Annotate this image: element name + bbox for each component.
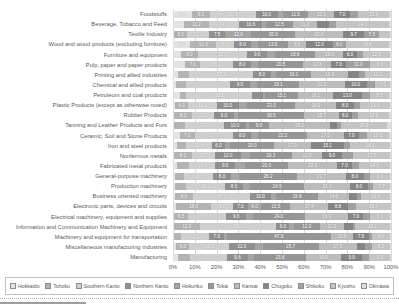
bar-segment: 12.0 — [294, 223, 320, 230]
bar-segment-label: 15.2 — [212, 62, 221, 67]
bar-segment: 7.0 — [233, 203, 248, 210]
bar-segment — [390, 61, 391, 68]
bar-segment: 6.0 — [212, 142, 225, 149]
bar-segment-label: 10.0 — [199, 113, 208, 118]
bar-segment-label: 9.0 — [329, 153, 335, 158]
bar-segment: 8.6 — [173, 11, 192, 18]
bar-segment — [243, 183, 251, 190]
bar-segment-label: 18.1 — [205, 244, 214, 249]
stacked-bar: 18.08.024.521.38.07.7 — [173, 183, 391, 190]
bar-segment-label: 10.6 — [246, 22, 255, 27]
bar-row: 8.010.712.019.313.99.017.3 — [173, 151, 391, 161]
bar-segment-label: 9.9 — [376, 255, 382, 260]
legend-item: Hokuriku — [174, 283, 202, 289]
bar-segment-label: 10.0 — [194, 32, 203, 37]
bar-segment — [389, 11, 391, 18]
bar-segment-label: 20.0 — [269, 32, 278, 37]
bar-segment-label: 14.0 — [329, 194, 338, 199]
bar-segment: 13.5 — [360, 102, 389, 109]
bar-segment: 19.3 — [250, 152, 292, 159]
bar-segment — [251, 61, 259, 68]
bar-segment: 26.2 — [239, 173, 296, 180]
bar-segment-label: 22.0 — [315, 32, 324, 37]
bar-segment — [235, 162, 245, 169]
bar-segment-label: 9.0 — [256, 123, 262, 128]
bar-segment: 9.0 — [247, 51, 267, 58]
bar-segment-label: 8.0 — [259, 72, 265, 77]
bar-segment-label: 8.5 — [376, 93, 382, 98]
category-axis: FoodstuffsBeverage, Tobacco and FeedText… — [0, 9, 170, 262]
legend-swatch — [234, 283, 240, 289]
bar-segment — [175, 173, 184, 180]
bar-segment: 11.0 — [346, 61, 370, 68]
bar-segment: 30.3 — [186, 92, 252, 99]
bar-segment-label: 7.0 — [369, 32, 375, 37]
bar-segment-label: 20.0 — [248, 143, 257, 148]
x-axis-tick-label: 0% — [169, 264, 177, 270]
bar-segment-label: 8.0 — [378, 234, 384, 239]
stacked-bar: 30.315.116.113.08.5 — [173, 92, 391, 99]
bar-segment — [390, 31, 391, 38]
x-axis: 0%10%20%30%40%50%60%70%80%90%100% — [173, 264, 391, 273]
stacked-bar: 8.68.520.910.011.512.17.013.9 — [173, 11, 391, 18]
bar-segment: 12.8 — [303, 61, 331, 68]
bar-segment: 12.0 — [190, 41, 216, 48]
bar-segment: 9.0 — [230, 81, 250, 88]
stacked-bar: 16.09.97.06.013.517.48.815.7 — [173, 203, 391, 210]
bar-segment: 11.0 — [293, 21, 317, 28]
stacked-bar: 17.910.09.028.220.9 — [173, 122, 391, 129]
bar-row: 29.38.016.116.911.2 — [173, 70, 391, 80]
bar-segment: 8.0 — [233, 132, 250, 139]
bar-segment: 21.0 — [299, 81, 345, 88]
bar-segment-label: 10.7 — [199, 153, 208, 158]
bar-segment-label: 9.7 — [350, 32, 356, 37]
legend-item-label: Kyushu — [338, 283, 355, 289]
bar-segment-label: 17.5 — [203, 214, 212, 219]
bar-segment: 10.0 — [345, 81, 367, 88]
bar-segment: 15.7 — [356, 203, 390, 210]
bar-segment: 10.6 — [239, 21, 262, 28]
bar-segment: 16.9 — [311, 71, 348, 78]
bar-segment-label: 6.0 — [180, 244, 186, 249]
bar-segment: 13.0 — [333, 92, 361, 99]
bar-segment: 7.0 — [348, 213, 363, 220]
legend-item: Chugoku — [263, 283, 292, 289]
bar-segment: 8.0 — [181, 51, 198, 58]
bar-segment: 22.0 — [247, 102, 295, 109]
bar-segment-label: 12.0 — [234, 32, 243, 37]
bar-segment: 7.0 — [185, 61, 200, 68]
category-label: Production machinery — [0, 181, 170, 191]
bar-segment: 6.0 — [176, 243, 189, 250]
bar-segment-label: 17.7 — [210, 133, 219, 138]
bar-segment-label: 7.9 — [178, 42, 184, 47]
bar-segment: 9.0 — [215, 162, 235, 169]
bar-segment-label: 20.5 — [276, 62, 285, 67]
bar-segment: 47.9 — [227, 233, 331, 240]
bar-segment — [176, 81, 186, 88]
bar-segment: 14.0 — [318, 193, 349, 200]
bar-segment-label: 10.0 — [223, 103, 232, 108]
bar-segment: 8.0 — [234, 41, 251, 48]
bar-segment: 15.1 — [311, 142, 344, 149]
legend-item-label: Okinawa — [369, 283, 389, 289]
category-label: Information and Communication Machinery … — [0, 222, 170, 232]
bar-segment-label: 13.8 — [268, 42, 277, 47]
bar-segment: 10.0 — [250, 193, 272, 200]
bar-segment-label: 16.9 — [325, 72, 334, 77]
bar-segment-label: 8.8 — [335, 204, 341, 209]
bar-segment — [255, 243, 263, 250]
bar-segment-label: 18.9 — [311, 103, 320, 108]
bar-segment: 20.2 — [186, 81, 230, 88]
bar-segment-label: 11.0 — [354, 62, 363, 67]
bar-segment: 8.0 — [225, 183, 242, 190]
bar-segment: 13.3 — [361, 193, 390, 200]
bar-segment: 20.0 — [251, 31, 295, 38]
stacked-bar: 7.015.28.020.512.87.011.09.0 — [173, 61, 391, 68]
bar-segment-label: 9.0 — [222, 163, 228, 168]
bar-segment — [251, 132, 259, 139]
bar-segment-label: 9.9 — [348, 255, 354, 260]
bar-row: 7.017.78.022.217.07.010.1 — [173, 131, 391, 141]
bar-row: 6.517.59.024.019.97.09.1 — [173, 212, 391, 222]
bar-segment-label: 12.1 — [317, 12, 326, 17]
bar-row: 17.09.623.816.09.99.9 — [173, 252, 391, 262]
